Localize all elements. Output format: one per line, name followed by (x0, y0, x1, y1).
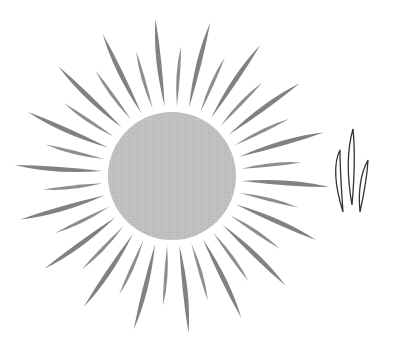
sun-ray (190, 243, 210, 302)
sun-ray (242, 177, 330, 188)
sun-ray (94, 70, 132, 121)
sun-ray (240, 191, 299, 209)
flame-icon (336, 129, 368, 212)
sun-ray (100, 33, 143, 114)
sun-ray (118, 240, 145, 296)
flame-blade (348, 129, 354, 205)
sun-ray (208, 43, 261, 119)
sun-ray (20, 194, 106, 223)
sun-ray (26, 111, 108, 151)
sun-ray (134, 51, 154, 110)
sun-ray (235, 201, 317, 241)
sun-ray (81, 226, 125, 272)
sun-ray (241, 160, 301, 170)
sun-ray (152, 19, 166, 107)
sun-ray (198, 56, 225, 112)
flame-blade (359, 160, 368, 212)
sun-ray (162, 246, 170, 306)
sun-ray (178, 245, 192, 333)
sun-disc (108, 112, 236, 240)
sun-ray (174, 46, 182, 106)
sun-ray (14, 164, 102, 175)
sun-illustration (0, 0, 397, 349)
sun-ray (45, 144, 104, 162)
sun-ray (238, 129, 324, 158)
flame-blade (336, 150, 343, 212)
sun-ray (202, 237, 245, 318)
sun-ray (43, 182, 103, 192)
sun-ray (212, 231, 250, 282)
sun-ray (83, 233, 136, 309)
sun-ray (219, 81, 263, 127)
